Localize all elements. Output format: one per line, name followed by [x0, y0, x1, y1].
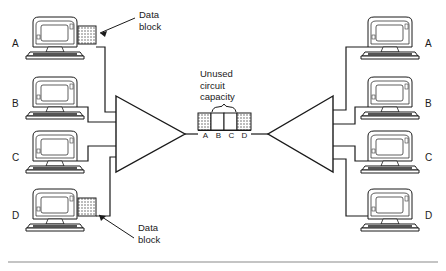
right-terminal-label-b: B [425, 98, 432, 109]
right-terminal-label-c: C [425, 152, 432, 163]
left-computer-c [26, 131, 84, 173]
unused-capacity-label: Unused circuit capacity [200, 68, 235, 103]
right-terminal-label-d: D [425, 210, 432, 221]
left-terminal-label-b: B [12, 98, 19, 109]
capacity-line1: Unused [200, 68, 235, 80]
left-data-block-a [78, 26, 96, 44]
right-computer-b [361, 77, 419, 119]
circuit-slot-a [198, 113, 211, 130]
circuit-slot-label-c: C [225, 131, 238, 140]
left-terminal-label-c: C [12, 152, 19, 163]
multiplexing-diagram: A B C D A B C D Data block Data block Un… [0, 0, 446, 271]
demultiplexer [268, 96, 333, 172]
multiplexer [116, 96, 185, 172]
right-computer-c [361, 131, 419, 173]
left-data-block-d [78, 198, 96, 216]
bottom-callout-line1: Data [138, 222, 160, 234]
capacity-line2: circuit [200, 80, 235, 92]
circuit-slot-label-a: A [199, 131, 212, 140]
left-terminal-label-a: A [12, 38, 19, 49]
left-computer-b [26, 77, 84, 119]
circuit-slot-b [211, 113, 224, 130]
bottom-callout-arrow [99, 215, 134, 238]
left-computer-d [26, 189, 84, 231]
top-data-block-callout: Data block [139, 9, 161, 32]
unused-capacity-bracket [212, 104, 236, 112]
right-terminal-label-a: A [425, 38, 432, 49]
circuit-slot-c [224, 113, 237, 130]
bottom-callout-line2: block [138, 234, 160, 246]
right-computer-d [361, 189, 419, 231]
top-callout-line1: Data [139, 9, 161, 21]
circuit-slot-label-b: B [212, 131, 225, 140]
right-connection-lines [333, 47, 368, 216]
left-terminal-label-d: D [12, 210, 19, 221]
right-computer-a [361, 17, 419, 59]
left-connection-lines [77, 47, 116, 216]
circuit-slot-label-d: D [238, 131, 251, 140]
left-computer-a [26, 17, 84, 59]
top-callout-line2: block [139, 21, 161, 33]
bottom-data-block-callout: Data block [138, 222, 160, 245]
top-callout-arrow [100, 18, 135, 37]
capacity-line3: capacity [200, 91, 235, 103]
circuit-slot-d [237, 113, 251, 130]
